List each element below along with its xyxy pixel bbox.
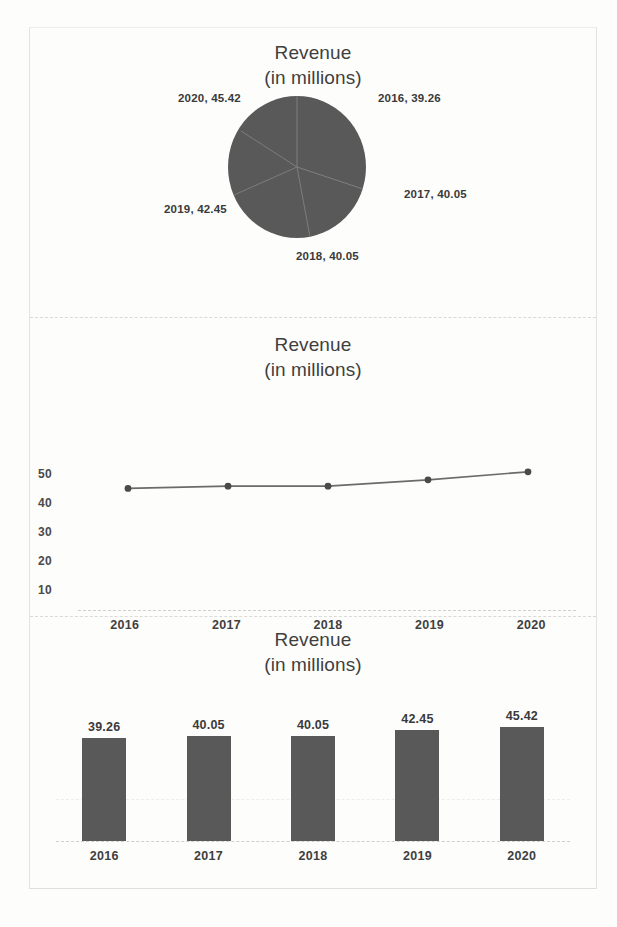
pie-chart-title: Revenue (in millions) [30, 28, 596, 90]
bar-value-2016: 39.26 [88, 720, 120, 734]
bar-column-2020: 45.42 [470, 709, 574, 841]
line-ytick-10: 10 [38, 576, 72, 605]
bar-x-axis: 2016 2017 2018 2019 2020 [52, 849, 574, 863]
bar-xtick-2019: 2019 [365, 849, 469, 863]
pie-label-2017: 2017, 40.05 [404, 188, 467, 200]
bar-rect-2018 [291, 736, 335, 841]
line-svg [74, 446, 582, 594]
pie-svg [227, 95, 367, 239]
pie-chart-panel: Revenue (in millions) 2016, 39.26 [30, 28, 596, 317]
bar-xtick-2017: 2017 [156, 849, 260, 863]
bar-title-main: Revenue [30, 627, 596, 652]
line-graphic [74, 446, 582, 594]
bar-title-sub: (in millions) [30, 652, 596, 677]
pie-label-2018: 2018, 40.05 [296, 250, 359, 262]
bar-column-2018: 40.05 [261, 709, 365, 841]
scanned-page: Revenue (in millions) 2016, 39.26 [0, 0, 617, 927]
bar-graphic: 39.26 40.05 40.05 42.45 45.42 [52, 709, 574, 841]
pie-label-2016: 2016, 39.26 [378, 92, 441, 104]
line-title-main: Revenue [30, 332, 596, 357]
bar-chart-title: Revenue (in millions) [30, 617, 596, 677]
line-title-sub: (in millions) [30, 357, 596, 382]
pie-label-2020: 2020, 45.42 [178, 92, 241, 104]
bar-plot-area: 39.26 40.05 40.05 42.45 45.42 [30, 677, 596, 877]
bar-rect-2019 [395, 730, 439, 841]
bar-value-2020: 45.42 [506, 709, 538, 723]
line-ytick-50: 50 [38, 460, 72, 489]
bar-chart-panel: Revenue (in millions) 39.26 40.05 40.05 [30, 617, 596, 888]
line-ytick-30: 30 [38, 518, 72, 547]
line-plot-area: 50 40 30 20 10 [30, 382, 596, 597]
bar-xtick-2016: 2016 [52, 849, 156, 863]
bar-xtick-2018: 2018 [261, 849, 365, 863]
line-y-axis: 50 40 30 20 10 [38, 460, 72, 605]
bar-xtick-2020: 2020 [470, 849, 574, 863]
pie-label-2019: 2019, 42.45 [164, 203, 227, 215]
bar-column-2017: 40.05 [156, 709, 260, 841]
line-baseline [78, 610, 576, 611]
line-ytick-20: 20 [38, 547, 72, 576]
bar-column-2016: 39.26 [52, 709, 156, 841]
bar-column-2019: 42.45 [365, 709, 469, 841]
pie-graphic [227, 95, 367, 239]
bar-value-2017: 40.05 [192, 718, 224, 732]
bar-value-2019: 42.45 [401, 712, 433, 726]
line-ytick-40: 40 [38, 489, 72, 518]
pie-title-sub: (in millions) [30, 65, 596, 90]
bar-rect-2020 [500, 727, 544, 841]
bar-rect-2016 [82, 738, 126, 841]
line-chart-title: Revenue (in millions) [30, 318, 596, 382]
bar-value-2018: 40.05 [297, 718, 329, 732]
line-chart-panel: Revenue (in millions) 50 40 30 20 10 [30, 318, 596, 616]
bar-baseline [56, 841, 570, 842]
bar-rect-2017 [187, 736, 231, 841]
pie-plot-area: 2016, 39.26 2017, 40.05 2018, 40.05 2019… [30, 90, 596, 290]
pie-title-main: Revenue [30, 40, 596, 65]
